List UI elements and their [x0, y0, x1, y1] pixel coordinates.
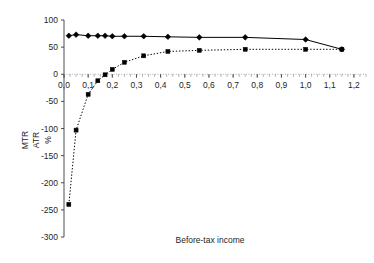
x-axis-tick-label: 0,6: [203, 80, 215, 90]
data-point-marker: [243, 47, 247, 51]
data-point-marker: [96, 79, 100, 83]
y-axis-tick-label: -50: [46, 96, 59, 106]
y-axis-tick-label: -200: [41, 178, 58, 188]
y-axis-tick-label: -150: [41, 151, 58, 161]
data-point-marker: [166, 49, 170, 53]
data-point-marker: [110, 67, 114, 71]
y-axis-tick-label: -300: [41, 232, 58, 242]
data-point-marker: [74, 128, 78, 132]
x-axis-tick-label: 0,5: [179, 80, 191, 90]
data-point-marker: [86, 92, 90, 96]
data-point-marker: [142, 54, 146, 58]
x-axis-tick-label: 0,7: [227, 80, 239, 90]
data-point-marker: [67, 202, 71, 206]
x-axis-tick-label: 0,4: [155, 80, 167, 90]
x-axis-tick-label: 0,8: [251, 80, 263, 90]
x-axis-tick-label: 0,2: [106, 80, 118, 90]
y-axis-tick-label: 0: [53, 69, 58, 79]
y-axis-label-atr: ATR: [31, 132, 41, 148]
x-axis-tick-label: 0,3: [131, 80, 143, 90]
chart-canvas: 100500-50-100-150-200-250-300 0,00,10,20…: [0, 0, 374, 263]
x-axis-tick-label: 1,0: [300, 80, 312, 90]
y-axis-tick-label: 50: [49, 42, 59, 52]
chart-figure: 100500-50-100-150-200-250-300 0,00,10,20…: [0, 0, 374, 263]
data-point-marker: [122, 60, 126, 64]
x-axis-tick-label: 1,2: [348, 80, 360, 90]
y-axis-tick-label: -250: [41, 205, 58, 215]
x-axis-tick-label: 0,0: [58, 80, 70, 90]
y-axis-label-mtr: MTR: [20, 131, 30, 149]
data-point-marker: [103, 73, 107, 77]
x-axis-tick-label: 1,1: [324, 80, 336, 90]
y-axis-tick-label: 100: [44, 15, 58, 25]
x-axis-tick-label: 0,9: [276, 80, 288, 90]
x-axis-title: Before-tax income: [176, 235, 245, 245]
y-axis-label-percent: %: [43, 136, 53, 144]
data-point-marker: [340, 47, 344, 51]
data-point-marker: [197, 48, 201, 52]
y-axis-tick-label: -100: [41, 124, 58, 134]
data-point-marker: [304, 47, 308, 51]
